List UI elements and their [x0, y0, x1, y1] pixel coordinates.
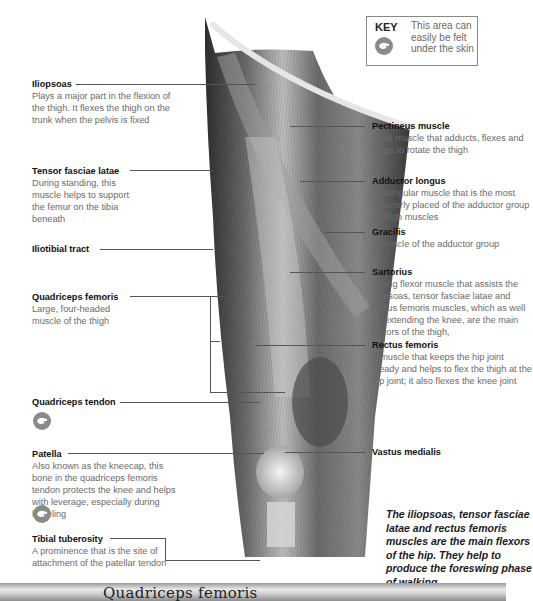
summary-note: The iliopsoas, tensor fasciae latae and …	[386, 508, 533, 589]
palpable-hand-icon	[33, 412, 51, 430]
leader-line	[120, 402, 260, 403]
leader-line	[130, 170, 213, 171]
label-iliopsoas: Iliopsoas Plays a major part in the flex…	[32, 78, 182, 126]
label-pectineus-muscle: Pectineus muscle A flat muscle that addu…	[372, 120, 532, 156]
label-quadriceps-tendon: Quadriceps tendon	[32, 396, 116, 408]
leader-line	[110, 538, 165, 539]
label-quadriceps-femoris: Quadriceps femoris Large, four-headed mu…	[32, 291, 132, 327]
leader-line	[325, 232, 365, 233]
palpable-hand-icon	[375, 37, 393, 55]
label-gracilis: Gracilis A muscle of the adductor group	[372, 226, 532, 250]
leader-line	[290, 126, 365, 127]
leader-line	[68, 453, 264, 454]
section-title: Quadriceps femoris	[103, 584, 258, 601]
label-vastus-medialis: Vastus medialis	[372, 446, 441, 458]
label-rectus-femoris: Rectus femoris A muscle that keeps the h…	[372, 339, 532, 387]
leader-line	[210, 392, 285, 393]
leader-line	[256, 345, 365, 346]
label-adductor-longus: Adductor longus A triangular muscle that…	[372, 175, 532, 223]
label-patella: Patella Also known as the kneecap, this …	[32, 448, 182, 520]
key-description: This area can easily be felt under the s…	[411, 20, 475, 55]
leader-line	[285, 452, 365, 453]
label-sartorius: Sartorius A long flexor muscle that assi…	[372, 266, 532, 338]
leader-line	[210, 341, 220, 342]
label-tensor-fasciae-latae: Tensor fasciae latae During standing, th…	[32, 165, 142, 225]
key-legend: KEY This area can easily be felt under t…	[366, 16, 478, 66]
leader-line	[300, 181, 365, 182]
leader-line	[100, 249, 213, 250]
leader-line	[165, 560, 260, 561]
leader-line	[290, 272, 365, 273]
leader-line	[210, 296, 211, 392]
leader-line	[165, 538, 166, 560]
palpable-hand-icon	[33, 505, 51, 523]
label-iliotibial-tract: Iliotibial tract	[32, 243, 89, 255]
key-title: KEY	[375, 21, 398, 33]
leader-line	[76, 84, 256, 85]
